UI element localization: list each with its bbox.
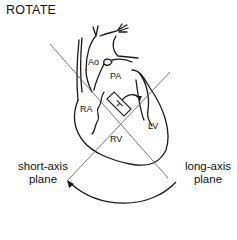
short-axis-plane-text: plane — [12, 173, 74, 186]
rotation-arrow — [70, 182, 176, 203]
pa-loop — [104, 59, 112, 65]
label-rv: RV — [110, 134, 122, 144]
long-axis-plane-label: long-axis plane — [180, 160, 236, 186]
label-lv: LV — [148, 121, 158, 131]
long-axis-plane-text: plane — [180, 173, 236, 186]
label-ra: RA — [80, 104, 93, 114]
short-axis-plane-label: short-axis plane — [12, 160, 74, 186]
chord-arrow — [122, 95, 140, 100]
aorta-right — [113, 36, 138, 58]
label-ao: Ao — [88, 57, 99, 67]
label-pa: PA — [110, 71, 121, 81]
pa-lower — [94, 64, 104, 90]
pa-outline — [112, 59, 132, 62]
svc-outline — [81, 38, 83, 92]
svc-outline-2 — [77, 40, 79, 100]
long-axis-text: long-axis — [180, 160, 236, 173]
short-axis-text: short-axis — [12, 160, 74, 173]
